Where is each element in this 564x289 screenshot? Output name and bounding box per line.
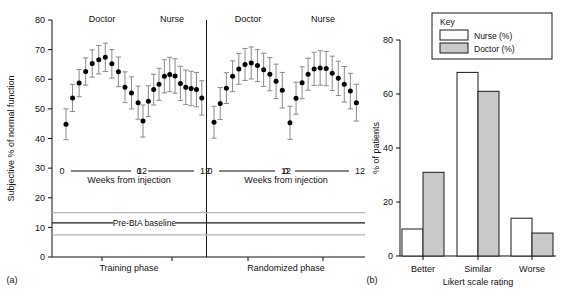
data-point-marker bbox=[70, 95, 75, 100]
bar-better-doctor bbox=[423, 172, 444, 256]
data-point-marker bbox=[324, 66, 329, 71]
panel-b-y-tick-label: 40 bbox=[383, 143, 393, 153]
panel-a-y-axis-label: Subjective % of normal function bbox=[6, 75, 16, 201]
data-point-marker bbox=[194, 87, 199, 92]
bar-worse-nurse bbox=[511, 218, 532, 256]
data-point-marker bbox=[336, 76, 341, 81]
data-point-marker bbox=[136, 100, 141, 105]
panel-a-y-tick-label: 10 bbox=[35, 223, 45, 233]
legend-label: Nurse (%) bbox=[474, 31, 512, 41]
data-point-marker bbox=[255, 63, 260, 68]
data-point-marker bbox=[274, 79, 279, 84]
panel-b-category-label: Better bbox=[411, 264, 435, 274]
panel-a-x-start-label: 0 bbox=[207, 166, 212, 176]
data-point-marker bbox=[249, 60, 254, 65]
data-point-marker bbox=[199, 95, 204, 100]
data-point-marker bbox=[224, 86, 229, 91]
legend-title: Key bbox=[440, 17, 455, 27]
data-point-marker bbox=[294, 96, 299, 101]
panel-a-y-tick-label: 60 bbox=[35, 74, 45, 84]
bar-better-nurse bbox=[402, 229, 423, 256]
data-point-marker bbox=[90, 61, 95, 66]
panel-a-caption: (a) bbox=[7, 275, 18, 285]
data-point-marker bbox=[83, 69, 88, 74]
figure-container: 01020304050607080Subjective % of normal … bbox=[0, 0, 564, 289]
data-point-marker bbox=[218, 101, 223, 106]
data-point-marker bbox=[96, 57, 101, 62]
data-point-marker bbox=[146, 99, 151, 104]
data-point-marker bbox=[167, 72, 172, 77]
data-point-marker bbox=[151, 87, 156, 92]
data-point-marker bbox=[354, 100, 359, 105]
data-point-marker bbox=[64, 122, 69, 127]
data-point-marker bbox=[77, 81, 82, 86]
panel-a-series-title: Nurse bbox=[311, 14, 335, 24]
panel-b-y-tick-label: 80 bbox=[383, 35, 393, 45]
data-point-marker bbox=[178, 81, 183, 86]
legend-swatch-doctor bbox=[440, 43, 468, 53]
data-point-marker bbox=[162, 74, 167, 79]
data-point-marker bbox=[300, 80, 305, 85]
data-point-marker bbox=[306, 72, 311, 77]
panel-b-category-label: Worse bbox=[519, 264, 545, 274]
data-point-marker bbox=[261, 67, 266, 72]
panel-b-x-axis-label: Likert scale rating bbox=[443, 277, 514, 287]
panel-a-y-tick-label: 0 bbox=[40, 252, 45, 262]
data-point-marker bbox=[318, 65, 323, 70]
figure-svg: 01020304050607080Subjective % of normal … bbox=[0, 0, 564, 289]
data-point-marker bbox=[122, 85, 127, 90]
panel-b-y-tick-label: 20 bbox=[383, 197, 393, 207]
data-point-marker bbox=[280, 88, 285, 93]
panel-a-series-title: Doctor bbox=[235, 14, 262, 24]
data-point-marker bbox=[212, 120, 217, 125]
legend-swatch-nurse bbox=[440, 30, 468, 40]
data-point-marker bbox=[312, 66, 317, 71]
data-point-marker bbox=[288, 120, 293, 125]
panel-b-category-label: Similar bbox=[464, 264, 492, 274]
data-point-marker bbox=[109, 61, 114, 66]
panel-a-x-axis-caption: Weeks from injection bbox=[244, 175, 327, 185]
data-point-marker bbox=[348, 89, 353, 94]
data-point-marker bbox=[116, 69, 121, 74]
data-point-marker bbox=[342, 82, 347, 87]
panel-a-y-tick-label: 50 bbox=[35, 104, 45, 114]
data-point-marker bbox=[330, 71, 335, 76]
panel-b-y-tick-label: 0 bbox=[388, 251, 393, 261]
pre-bta-baseline-label: Pre-BtA baseline bbox=[113, 218, 177, 228]
bar-similar-nurse bbox=[457, 72, 478, 256]
panel-a-x-end-label: 12 bbox=[355, 166, 365, 176]
data-point-marker bbox=[236, 66, 241, 71]
panel-a-y-tick-label: 40 bbox=[35, 134, 45, 144]
panel-a-x-axis-caption: Weeks from injection bbox=[87, 175, 170, 185]
panel-a-series-title: Doctor bbox=[89, 14, 116, 24]
panel-b-y-tick-label: 60 bbox=[383, 89, 393, 99]
panel-a-phase-label: Training phase bbox=[99, 263, 158, 273]
panel-a-y-tick-label: 70 bbox=[35, 45, 45, 55]
data-point-marker bbox=[173, 73, 178, 78]
data-point-marker bbox=[267, 72, 272, 77]
panel-a-y-tick-label: 80 bbox=[35, 15, 45, 25]
bar-worse-doctor bbox=[532, 233, 553, 256]
panel-a-x-start-label: 0 bbox=[59, 166, 64, 176]
panel-b-y-axis-label: % of patients bbox=[371, 121, 381, 174]
panel-a-phase-label: Randomized phase bbox=[247, 263, 325, 273]
data-point-marker bbox=[183, 85, 188, 90]
data-point-marker bbox=[157, 82, 162, 87]
data-point-marker bbox=[141, 119, 146, 124]
panel-a-y-tick-label: 30 bbox=[35, 163, 45, 173]
panel-a-series-title: Nurse bbox=[160, 14, 184, 24]
panel-a-y-tick-label: 20 bbox=[35, 193, 45, 203]
legend-label: Doctor (%) bbox=[474, 44, 515, 54]
panel-b-caption: (b) bbox=[367, 275, 378, 285]
data-point-marker bbox=[230, 74, 235, 79]
data-point-marker bbox=[103, 55, 108, 60]
data-point-marker bbox=[189, 86, 194, 91]
data-point-marker bbox=[129, 90, 134, 95]
data-point-marker bbox=[243, 62, 248, 67]
bar-similar-doctor bbox=[478, 91, 499, 256]
